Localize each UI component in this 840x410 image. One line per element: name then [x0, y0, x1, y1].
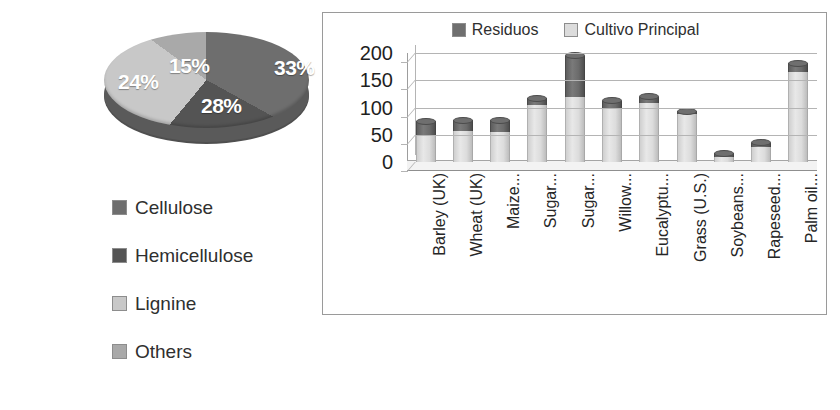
pie-legend-swatch-others	[112, 344, 127, 359]
y-axis-tick	[401, 117, 408, 118]
y-axis-tick-label: 0	[382, 152, 393, 172]
bar-top-cap	[677, 108, 697, 115]
x-axis-tick-label: Sugar...	[543, 173, 559, 228]
pie-legend-label-hemicellulose: Hemicellulose	[135, 246, 253, 265]
y-axis-tick	[401, 171, 408, 172]
bar-column	[714, 153, 734, 162]
pie-chart-panel: 33% 28% 24% 15% Cellulose Hemicellulose …	[0, 0, 320, 410]
pie-slice-label-cellulose: 33%	[274, 56, 315, 80]
pie-chart-graphic: 33% 28% 24% 15%	[104, 32, 309, 150]
bar-segment-residuos	[527, 98, 547, 105]
bar-column	[565, 56, 585, 162]
y-axis-tick	[401, 89, 408, 90]
bar-legend-swatch-residuos	[452, 23, 466, 37]
bar-segment-body	[565, 97, 585, 162]
pie-legend: Cellulose Hemicellulose Lignine Others	[112, 198, 327, 390]
gridline	[415, 135, 817, 136]
y-axis-tick-label: 100	[360, 98, 393, 118]
x-axis-tick-label: Barley (UK)	[432, 173, 448, 256]
bar-top-cap	[416, 118, 436, 125]
pie-legend-swatch-lignine	[112, 296, 127, 311]
bar-legend: Residuos Cultivo Principal	[323, 21, 828, 39]
pie-slice-label-lignine: 24%	[118, 70, 159, 94]
x-axis-tick-label: Sugar...	[581, 173, 597, 228]
plot-grid	[397, 53, 817, 171]
bar-column	[788, 63, 808, 162]
bar-segment-body	[677, 114, 697, 162]
bar-segment-cultivo-principal	[751, 147, 771, 162]
bar-top-cap	[788, 60, 808, 67]
bar-column	[639, 97, 659, 162]
bar-segment-cultivo-principal	[639, 103, 659, 162]
x-axis-tick-label: Palm oil...	[804, 173, 820, 243]
bar-segment-body	[565, 56, 585, 97]
bar-top-cap	[490, 117, 510, 124]
y-axis-tick-label: 50	[371, 125, 393, 145]
pie-legend-item-lignine: Lignine	[112, 294, 327, 313]
pie-legend-label-cellulose: Cellulose	[135, 198, 213, 217]
bar-plot-area: 050100150200	[335, 53, 820, 171]
bar-segment-body	[788, 72, 808, 162]
bar-column	[453, 120, 473, 162]
x-axis-tick-label: Maize...	[506, 173, 522, 229]
x-axis-tick-label: Eucalyptu...	[655, 173, 671, 257]
pie-legend-item-others: Others	[112, 342, 327, 361]
bar-segment-residuos	[416, 121, 436, 136]
x-axis-tick-label: Wheat (UK)	[469, 173, 485, 257]
bar-chart-panel: Residuos Cultivo Principal 050100150200 …	[322, 12, 827, 315]
x-axis-tick-label: Willow...	[618, 173, 634, 232]
bar-segment-residuos	[788, 63, 808, 72]
x-axis-labels: Barley (UK)Wheat (UK)Maize...Sugar...Sug…	[335, 173, 820, 313]
gridline	[415, 53, 817, 54]
bar-top-cap	[714, 150, 734, 157]
pie-legend-item-cellulose: Cellulose	[112, 198, 327, 217]
bar-segment-body	[416, 136, 436, 162]
bar-column	[751, 143, 771, 162]
pie-legend-swatch-cellulose	[112, 200, 127, 215]
gridline	[415, 80, 817, 81]
bar-segment-body	[714, 157, 734, 162]
bar-top-cap	[453, 117, 473, 124]
bar-column	[490, 120, 510, 162]
bar-legend-item-residuos: Residuos	[452, 21, 539, 39]
pie-slice-label-hemicellulose: 28%	[201, 94, 242, 118]
bar-segment-residuos	[639, 97, 659, 104]
bar-segment-cultivo-principal	[527, 105, 547, 162]
bar-segment-cultivo-principal	[677, 114, 697, 162]
bar-segment-body	[751, 147, 771, 162]
pie-legend-label-lignine: Lignine	[135, 294, 196, 313]
y-axis-tick	[401, 144, 408, 145]
x-axis-tick-label: Grass (U.S.)	[693, 173, 709, 262]
bar-segment-residuos	[751, 143, 771, 147]
bar-segment-cultivo-principal	[565, 97, 585, 162]
bar-segment-cultivo-principal	[416, 136, 436, 162]
y-axis-tick	[401, 62, 408, 63]
x-axis-tick-label: Soybeans...	[730, 173, 746, 258]
gridline	[415, 108, 817, 109]
bar-legend-item-cultivo-principal: Cultivo Principal	[564, 21, 699, 39]
bar-segment-residuos	[677, 111, 697, 114]
x-axis-tick-label: Rapeseed...	[767, 173, 783, 259]
bar-legend-swatch-cultivo-principal	[564, 23, 578, 37]
y-axis-tick-label: 200	[360, 43, 393, 63]
bar-legend-label-residuos: Residuos	[472, 21, 539, 39]
bar-segment-cultivo-principal	[490, 132, 510, 162]
bar-segment-cultivo-principal	[714, 157, 734, 162]
y-axis: 050100150200	[335, 53, 393, 171]
y-axis-tick-label: 150	[360, 70, 393, 90]
bar-segment-body	[527, 105, 547, 162]
pie-legend-item-hemicellulose: Hemicellulose	[112, 246, 327, 265]
bar-segment-cultivo-principal	[788, 72, 808, 162]
bar-column	[677, 111, 697, 162]
bar-legend-label-cultivo-principal: Cultivo Principal	[584, 21, 699, 39]
bar-segment-residuos	[714, 153, 734, 156]
pie-legend-swatch-hemicellulose	[112, 248, 127, 263]
bar-segment-residuos	[565, 56, 585, 97]
pie-legend-label-others: Others	[135, 342, 192, 361]
bar-segment-residuos	[490, 120, 510, 132]
bar-segment-body	[490, 132, 510, 162]
bar-column	[416, 121, 436, 162]
bar-segment-residuos	[453, 120, 473, 131]
bar-segment-body	[639, 103, 659, 162]
bar-top-cap	[527, 95, 547, 102]
